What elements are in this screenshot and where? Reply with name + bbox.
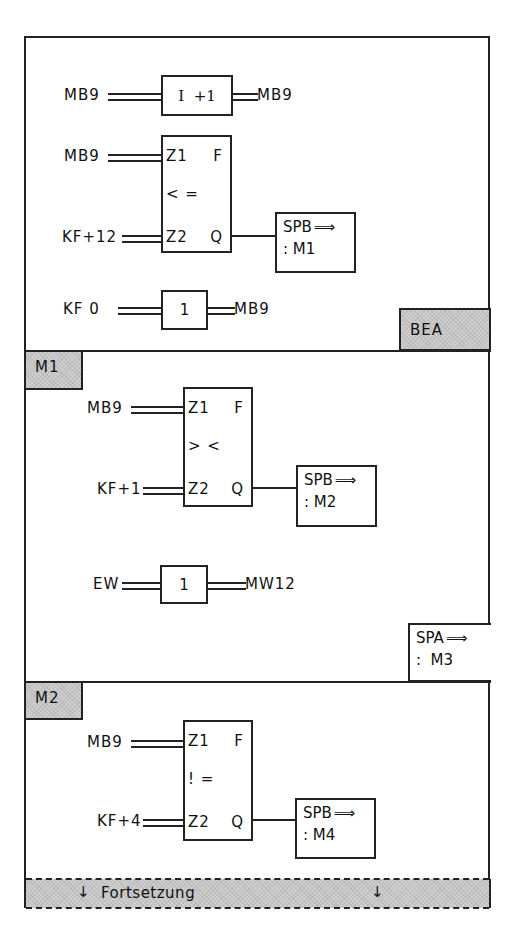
compare-in1-wire — [131, 740, 183, 748]
jump-block: SPB⟹ : M1 — [275, 212, 356, 273]
end-jump-instr: SPA — [416, 629, 444, 647]
dashed-bottom-edge — [26, 907, 489, 909]
dashed-top-edge — [26, 878, 489, 880]
label-tag-m2: M2 — [24, 681, 83, 720]
assign-op: 1 — [179, 576, 189, 594]
jump-instr-line: SPB⟹ — [303, 804, 355, 822]
jump-target: : M2 — [304, 493, 336, 511]
compare-in1-wire — [108, 154, 161, 162]
label-tag-m1: M1 — [24, 350, 83, 390]
pin-z1: Z1 — [166, 147, 188, 165]
q-wire — [232, 235, 275, 237]
compare-op: < = — [166, 185, 199, 203]
compare-in2-wire — [143, 819, 183, 827]
increment-output-wire — [233, 93, 258, 101]
pin-f: F — [234, 399, 244, 417]
jump-instr: SPB — [283, 218, 312, 236]
assign-output-wire — [208, 582, 246, 590]
compare-op: ! = — [188, 770, 214, 788]
assign-block: 1 — [160, 565, 208, 604]
assign-input-label: KF 0 — [63, 300, 100, 318]
jump-instr: SPB — [303, 804, 332, 822]
compare-in1-label: MB9 — [87, 399, 123, 417]
jump-arrow-icon: ⟹ — [314, 218, 336, 236]
jump-block: SPB⟹ : M4 — [295, 798, 376, 859]
compare-in2-label: KF+4 — [97, 812, 142, 830]
jump-target: : M1 — [283, 240, 315, 258]
increment-op: I +1 — [178, 87, 216, 105]
assign-op: 1 — [180, 301, 190, 319]
compare-op: > < — [188, 437, 221, 455]
q-wire — [253, 819, 296, 821]
pin-z1: Z1 — [188, 399, 210, 417]
increment-input-label: MB9 — [64, 86, 100, 104]
increment-output-label: MB9 — [257, 86, 293, 104]
assign-output-label: MB9 — [234, 300, 270, 318]
pin-z2: Z2 — [166, 228, 188, 246]
continuation-band: ↓ Fortsetzung ↓ — [24, 879, 491, 908]
compare-in2-wire — [122, 235, 161, 243]
pin-z1: Z1 — [188, 732, 210, 750]
down-arrow-icon: ↓ — [371, 883, 384, 901]
pin-q: Q — [231, 813, 244, 831]
compare-in2-label: KF+12 — [62, 228, 117, 246]
jump-instr: SPB — [304, 471, 333, 489]
compare-block: Z1 F < = Z2 Q — [161, 135, 232, 253]
increment-block: I +1 — [161, 75, 233, 116]
end-jump-target: : M3 — [416, 651, 453, 669]
pin-z2: Z2 — [188, 480, 210, 498]
pin-q: Q — [210, 228, 223, 246]
end-jump-block: SPA⟹ : M3 — [408, 623, 491, 682]
pin-q: Q — [231, 480, 244, 498]
jump-arrow-icon: ⟹ — [335, 471, 357, 489]
end-jump-arrow-icon: ⟹ — [446, 629, 468, 647]
compare-in1-label: MB9 — [87, 733, 123, 751]
compare-in2-label: KF+1 — [97, 480, 142, 498]
compare-in1-label: MB9 — [64, 147, 100, 165]
assign-output-label: MW12 — [245, 575, 296, 593]
jump-target: : M4 — [303, 826, 335, 844]
compare-block: Z1 F ! = Z2 Q — [183, 720, 253, 841]
segment-divider — [24, 681, 491, 683]
pin-f: F — [234, 732, 244, 750]
assign-input-wire — [118, 307, 161, 315]
q-wire — [253, 487, 296, 489]
down-arrow-icon: ↓ — [77, 883, 90, 901]
segment-divider — [24, 350, 491, 352]
jump-instr-line: SPB⟹ — [283, 218, 335, 236]
pin-f: F — [213, 147, 223, 165]
jump-instr-line: SPB⟹ — [304, 471, 356, 489]
end-tag-bea: BEA — [399, 308, 491, 351]
increment-input-wire — [108, 93, 161, 101]
assign-input-label: EW — [93, 575, 119, 593]
pin-z2: Z2 — [188, 813, 210, 831]
continuation-label: Fortsetzung — [101, 884, 195, 902]
assign-output-wire — [208, 307, 235, 315]
end-jump-instr-line: SPA⟹ — [416, 629, 467, 647]
assign-input-wire — [122, 582, 160, 590]
jump-block: SPB⟹ : M2 — [296, 465, 377, 527]
compare-in2-wire — [143, 487, 183, 495]
assign-block: 1 — [161, 290, 208, 330]
compare-in1-wire — [131, 406, 183, 414]
compare-block: Z1 F > < Z2 Q — [183, 387, 253, 507]
jump-arrow-icon: ⟹ — [334, 804, 356, 822]
